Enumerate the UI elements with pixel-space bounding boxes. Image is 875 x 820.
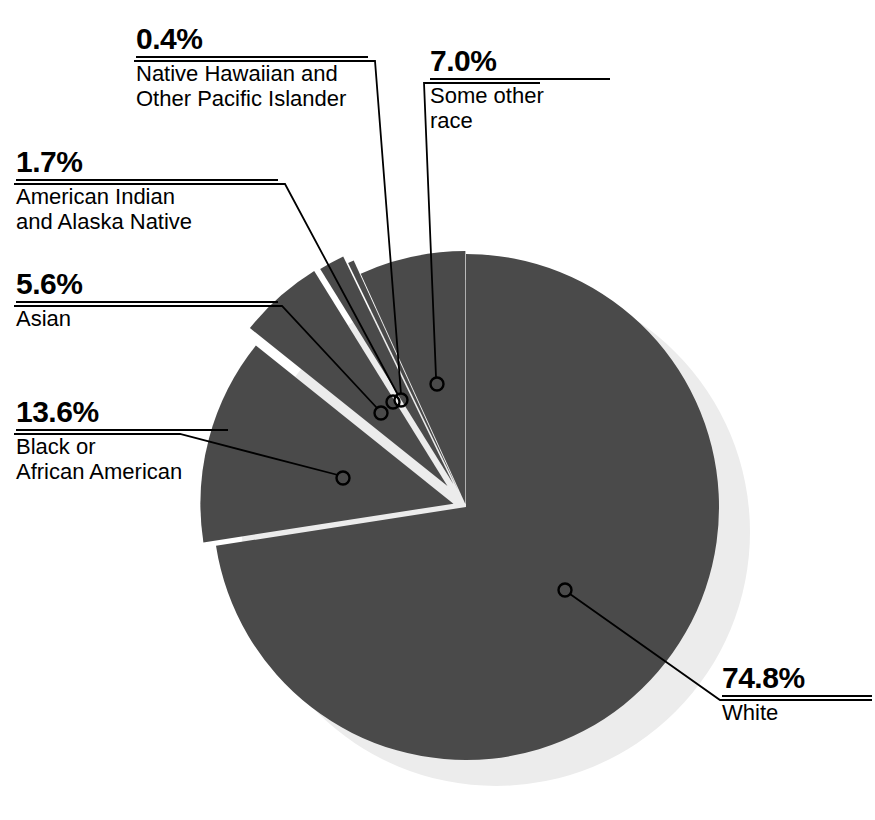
callout-rule-some-other-race [430, 78, 610, 80]
pie-chart-figure: 0.4% Native Hawaiian and Other Pacific I… [0, 0, 875, 820]
callout-percent-american-indian: 1.7% [16, 147, 278, 177]
callout-white: 74.8% White [722, 663, 872, 725]
callout-percent-asian: 5.6% [16, 269, 278, 299]
callout-american-indian: 1.7% American Indian and Alaska Native [16, 147, 278, 235]
callout-label-asian: Asian [16, 306, 278, 331]
callout-percent-native-hawaiian: 0.4% [136, 24, 368, 54]
callout-rule-native-hawaiian [136, 56, 368, 58]
callout-label-native-hawaiian: Native Hawaiian and Other Pacific Island… [136, 61, 368, 112]
callout-percent-some-other-race: 7.0% [430, 46, 610, 76]
callout-native-hawaiian: 0.4% Native Hawaiian and Other Pacific I… [136, 24, 368, 112]
callout-label-black-african-american: Black or African American [16, 434, 228, 485]
callout-percent-white: 74.8% [722, 663, 872, 693]
callout-label-white: White [722, 700, 872, 725]
callout-label-some-other-race: Some other race [430, 83, 610, 134]
callout-rule-american-indian [16, 179, 278, 181]
callout-some-other-race: 7.0% Some other race [430, 46, 610, 134]
callout-rule-white [722, 695, 872, 697]
callout-percent-black-african-american: 13.6% [16, 397, 228, 427]
callout-rule-asian [16, 301, 278, 303]
callout-black-african-american: 13.6% Black or African American [16, 397, 228, 485]
callout-rule-black-african-american [16, 429, 228, 431]
callout-label-american-indian: American Indian and Alaska Native [16, 184, 278, 235]
callout-asian: 5.6% Asian [16, 269, 278, 331]
